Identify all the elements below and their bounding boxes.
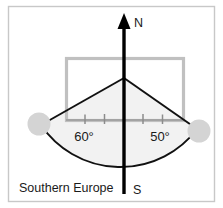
right-angle-label: 50° <box>150 129 170 144</box>
south-label: S <box>133 183 141 197</box>
east-endpoint-marker <box>188 120 211 143</box>
west-endpoint-marker <box>28 113 51 136</box>
left-angle-label: 60° <box>74 129 94 144</box>
north-label: N <box>134 16 143 30</box>
region-label: Southern Europe <box>19 181 114 195</box>
figure-container: N S 60° 50° Southern Europe <box>0 0 223 208</box>
